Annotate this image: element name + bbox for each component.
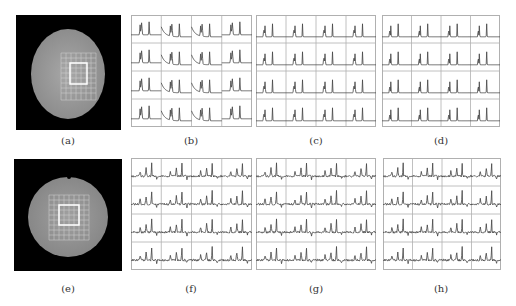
spectrum-cell <box>441 52 471 65</box>
panel-d-spectra-grid <box>382 15 500 127</box>
phantom-image-a <box>16 15 121 130</box>
spectrum-cell <box>346 247 376 263</box>
spectrum-cell <box>382 52 412 65</box>
spectrum-cell <box>222 50 252 63</box>
spectrum-cell <box>161 52 191 65</box>
spectrum-cell <box>316 24 346 37</box>
spectrum-cell <box>442 219 472 234</box>
spectrum-cell <box>192 52 222 65</box>
spectrum-cell <box>222 164 252 179</box>
spectrum-cell <box>316 108 346 121</box>
spectrum-cell <box>222 22 252 35</box>
spectrum-cell <box>346 24 376 37</box>
spectra-grid-d <box>382 15 500 127</box>
spectrum-cell <box>316 80 346 93</box>
spectrum-cell <box>442 247 472 263</box>
panel-label-a: (a) <box>38 135 98 146</box>
spectrum-cell <box>131 163 161 180</box>
panel-a-image <box>16 15 121 130</box>
panel-g-spectra-grid <box>256 158 376 270</box>
panel-label-c: (c) <box>286 135 346 146</box>
spectrum-cell <box>161 192 191 208</box>
spectrum-cell <box>192 108 222 121</box>
spectrum-cell <box>442 163 472 178</box>
spectrum-cell <box>441 24 471 37</box>
panel-label-g: (g) <box>286 283 346 294</box>
spectrum-cell <box>161 163 191 180</box>
panel-label-d: (d) <box>411 135 471 146</box>
spectrum-cell <box>222 247 252 263</box>
spectrum-cell <box>346 80 376 93</box>
spectrum-cell <box>346 52 376 65</box>
spectrum-cell <box>471 24 501 37</box>
spectrum-cell <box>442 190 472 206</box>
spectrum-cell <box>472 164 502 179</box>
spectrum-cell <box>192 190 222 206</box>
spectrum-cell <box>441 108 471 121</box>
spectrum-cell <box>346 220 376 235</box>
spectrum-cell <box>382 24 412 37</box>
panel-h-spectra-grid <box>383 158 501 270</box>
spectrum-cell <box>131 219 161 236</box>
spectrum-cell <box>161 108 191 121</box>
spectrum-cell <box>222 191 252 207</box>
spectrum-cell <box>256 192 286 208</box>
spectrum-cell <box>256 248 286 264</box>
spectra-grid-f <box>131 158 252 270</box>
spectrum-cell <box>413 248 443 262</box>
spectrum-cell <box>413 219 443 236</box>
spectrum-cell <box>346 108 376 121</box>
spectrum-cell <box>161 248 191 262</box>
spectrum-cell <box>256 163 286 180</box>
panel-label-b: (b) <box>161 135 221 146</box>
spectrum-cell <box>412 108 442 121</box>
spectra-grid-h <box>383 158 501 270</box>
spectrum-cell <box>131 78 161 91</box>
panel-label-f: (f) <box>161 283 221 294</box>
spectrum-cell <box>472 247 502 263</box>
spectrum-cell <box>192 219 222 234</box>
spectrum-cell <box>383 219 413 236</box>
spectrum-cell <box>471 52 501 65</box>
spectrum-cell <box>286 248 316 262</box>
spectrum-cell <box>256 24 286 37</box>
panel-c-spectra-grid <box>256 15 376 127</box>
spectrum-cell <box>222 106 252 119</box>
panel-e-image <box>14 159 122 271</box>
spectrum-cell <box>256 52 286 65</box>
spectrum-cell <box>192 163 222 178</box>
spectrum-cell <box>286 80 316 93</box>
spectrum-cell <box>316 190 346 206</box>
spectrum-cell <box>413 192 443 208</box>
spectrum-cell <box>382 108 412 121</box>
spectrum-cell <box>413 163 443 180</box>
spectrum-cell <box>192 247 222 263</box>
spectrum-cell <box>222 220 252 235</box>
spectrum-cell <box>256 108 286 121</box>
spectra-grid-c <box>256 15 376 127</box>
phantom-image-e <box>14 159 122 271</box>
spectrum-cell <box>222 78 252 91</box>
spectrum-cell <box>346 191 376 207</box>
spectrum-cell <box>286 24 316 37</box>
spectrum-cell <box>286 192 316 208</box>
spectrum-cell <box>346 164 376 179</box>
spectrum-cell <box>471 108 501 121</box>
spectrum-cell <box>161 24 191 37</box>
spectrum-cell <box>383 192 413 208</box>
panel-b-spectra-grid <box>131 15 252 127</box>
spectrum-cell <box>412 24 442 37</box>
spectrum-cell <box>192 24 222 37</box>
spectrum-cell <box>472 191 502 207</box>
spectrum-cell <box>161 80 191 93</box>
spectrum-cell <box>286 219 316 236</box>
spectrum-cell <box>131 192 161 208</box>
spectrum-cell <box>286 108 316 121</box>
spectrum-cell <box>131 248 161 264</box>
spectrum-cell <box>286 163 316 180</box>
spectrum-cell <box>471 80 501 93</box>
spectrum-cell <box>256 80 286 93</box>
panel-label-h: (h) <box>411 283 471 294</box>
spectrum-cell <box>382 80 412 93</box>
spectrum-cell <box>316 163 346 178</box>
